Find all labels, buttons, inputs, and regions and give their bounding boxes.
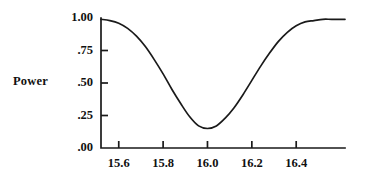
y-tick-label: .25	[53, 108, 93, 123]
y-axis-ticks	[101, 51, 108, 116]
y-tick-label: 1.00	[53, 10, 93, 25]
x-tick-label: 16.2	[232, 156, 272, 171]
chart-figure: Power 1.00.75.50.25.00 15.615.816.016.21…	[0, 0, 368, 190]
x-tick-label: 16.4	[276, 156, 316, 171]
y-tick-label: .75	[53, 43, 93, 58]
x-tick-label: 15.8	[143, 156, 183, 171]
y-tick-label: .00	[53, 140, 93, 155]
x-axis-ticks	[119, 141, 296, 148]
x-tick-label: 15.6	[99, 156, 139, 171]
x-tick-label: 16.0	[187, 156, 227, 171]
power-curve-line	[101, 19, 345, 128]
data-series-group	[101, 19, 345, 128]
y-tick-label: .50	[53, 75, 93, 90]
